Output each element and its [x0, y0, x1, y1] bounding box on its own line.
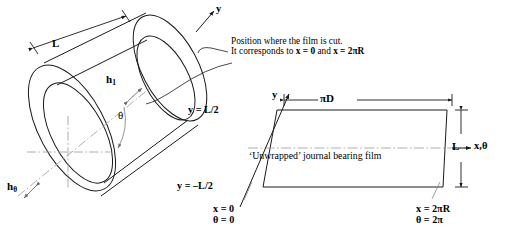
right-corner-theta: θ = 2π	[416, 214, 450, 225]
theta-angle-label: θ	[118, 110, 123, 122]
htheta-subscript: θ	[13, 185, 17, 194]
callout-line-2: It corresponds to x = 0 and x = 2πR	[231, 46, 364, 56]
bore-centerline-cross	[18, 88, 150, 196]
film-thickness-htheta-label: hθ	[7, 181, 17, 194]
left-corner-equations: x = 0 θ = 0	[213, 203, 234, 225]
unwrapped-film-outline	[263, 110, 447, 187]
film-thickness-h1-arrow	[128, 88, 142, 101]
callout-line-2-prefix: It corresponds to	[231, 46, 296, 56]
cylinder-y-axis-arrow	[196, 11, 214, 32]
cut-position-callout: Position where the film is cut. It corre…	[231, 36, 364, 56]
height-dimension-label: L	[452, 141, 459, 153]
right-corner-equations: x = 2πR θ = 2π	[416, 203, 450, 225]
callout-line-2-conjunction: and	[315, 46, 333, 56]
width-dimension-label: πD	[320, 93, 334, 105]
left-corner-x: x = 0	[213, 203, 234, 214]
unwrapped-film-body-text: ‘Unwrapped’ journal bearing film	[249, 151, 381, 162]
unwrapped-x-axis-label: x,θ	[474, 140, 487, 151]
width-dimension-piD	[284, 94, 452, 106]
right-corner-x: x = 2πR	[416, 203, 450, 214]
corner-leader-ticks	[244, 182, 440, 200]
film-thickness-h1-label: h1	[106, 74, 116, 87]
film-thickness-htheta-arrow	[24, 186, 36, 198]
cylinder-length-label: L	[52, 38, 59, 50]
callout-eq-x0: x = 0	[296, 46, 315, 56]
callout-eq-x2piR: x = 2πR	[333, 46, 364, 56]
bottom-edge-label-y-neg-half-L: y = –L/2	[177, 180, 213, 191]
cylinder-y-axis-label: y	[216, 3, 221, 14]
callout-line-1: Position where the film is cut.	[231, 36, 364, 46]
journal-bearing-figure: L h1 hθ θ y Position where the film is c…	[0, 0, 508, 243]
unwrapped-y-axis-label: y	[272, 89, 277, 100]
h1-subscript: 1	[112, 78, 116, 87]
cylinder-length-dimension	[30, 10, 130, 54]
top-edge-label-y-half-L: y = L/2	[188, 104, 219, 115]
left-corner-theta: θ = 0	[213, 214, 234, 225]
